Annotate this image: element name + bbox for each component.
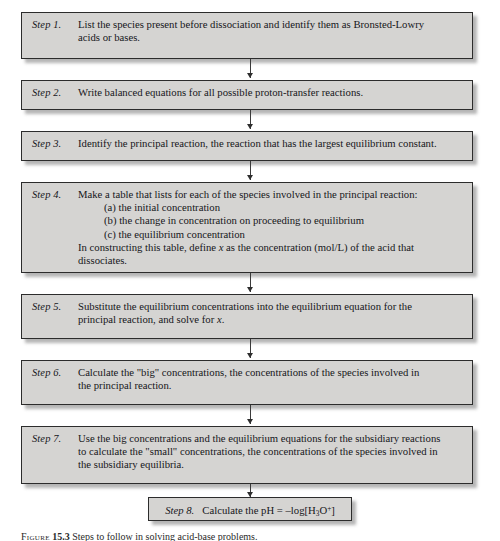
step-6-line-1: Calculate the "big" concentrations, the …: [78, 366, 419, 378]
step-7-line-1: Use the big concentrations and the equil…: [78, 432, 440, 444]
step-7-label: Step 7.: [32, 432, 78, 445]
step-4-sub-a: (a) the initial concentration: [78, 201, 464, 214]
step-7-line-3: the subsidiary equilibria.: [78, 458, 464, 471]
step-4-body: Make a table that lists for each of the …: [78, 188, 464, 267]
step-7-body: Use the big concentrations and the equil…: [78, 432, 464, 472]
caption-text: Steps to follow in solving acid-base pro…: [72, 531, 257, 541]
step-8-content: Step 8.Calculate the pH = –log[H3O+]: [161, 503, 339, 521]
step-box-6: Step 6. Calculate the "big" concentratio…: [21, 360, 473, 405]
step-4-sub-b: (b) the change in concentration on proce…: [78, 214, 464, 227]
step-6-label: Step 6.: [32, 366, 78, 379]
step-1-line-1: List the species present before dissocia…: [78, 18, 424, 30]
step-4-cont-2: dissociates.: [78, 254, 464, 267]
caption-lead: Figure: [21, 531, 50, 541]
step-4-cont-1: In constructing this table, define x as …: [78, 241, 464, 254]
step-3-body: Identify the principal reaction, the rea…: [78, 137, 464, 150]
step-1-label: Step 1.: [32, 18, 78, 31]
step-2-label: Step 2.: [32, 86, 78, 99]
step-box-7: Step 7. Use the big concentrations and t…: [21, 426, 473, 484]
step-8-formula: Calculate the pH = –log[H3O+]: [202, 504, 335, 516]
step-box-5: Step 5. Substitute the equilibrium conce…: [21, 294, 473, 339]
step-7-line-2: to calculate the "small" concentrations,…: [78, 445, 464, 458]
arrowhead-2-to-3: [247, 124, 253, 129]
arrowhead-5-to-6: [247, 353, 253, 358]
step-5-body: Substitute the equilibrium concentration…: [78, 300, 464, 326]
arrowhead-6-to-7: [247, 419, 253, 424]
step-6-body: Calculate the "big" concentrations, the …: [78, 366, 464, 392]
step-5-line-2: principal reaction, and solve for x.: [78, 313, 464, 326]
arrowhead-1-to-2: [247, 73, 253, 78]
step-2-body: Write balanced equations for all possibl…: [78, 86, 464, 99]
step-6-line-2: the principal reaction.: [78, 379, 464, 392]
step-box-4: Step 4. Make a table that lists for each…: [21, 182, 473, 273]
figure-caption: Figure 15.3 Steps to follow in solving a…: [21, 531, 481, 541]
flowchart-diagram: Step 1. List the species present before …: [0, 0, 500, 541]
step-4-sub-c: (c) the equilibrium concentration: [78, 228, 464, 241]
step-5-label: Step 5.: [32, 300, 78, 313]
step-box-1: Step 1. List the species present before …: [21, 12, 473, 59]
arrowhead-4-to-5: [247, 287, 253, 292]
step-8-label: Step 8.: [165, 504, 194, 516]
step-box-8: Step 8.Calculate the pH = –log[H3O+]: [148, 497, 352, 521]
step-box-2: Step 2. Write balanced equations for all…: [21, 80, 473, 110]
step-5-line-1: Substitute the equilibrium concentration…: [78, 300, 412, 312]
step-4-label: Step 4.: [32, 188, 78, 201]
step-3-line-1: Identify the principal reaction, the rea…: [78, 137, 437, 149]
step-1-body: List the species present before dissocia…: [78, 18, 464, 44]
arrowhead-3-to-4: [247, 175, 253, 180]
step-1-line-2: acids or bases.: [78, 31, 464, 44]
step-box-3: Step 3. Identify the principal reaction,…: [21, 131, 473, 161]
caption-number: 15.3: [52, 531, 70, 541]
step-4-line-1: Make a table that lists for each of the …: [78, 188, 418, 200]
step-3-label: Step 3.: [32, 137, 78, 150]
step-2-line-1: Write balanced equations for all possibl…: [78, 86, 363, 98]
